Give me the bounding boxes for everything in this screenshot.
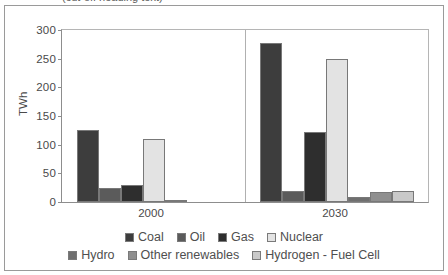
bar-gas-2030: [304, 132, 326, 202]
bar-gas-2000: [121, 185, 143, 202]
legend-swatch-icon: [68, 251, 77, 260]
legend-swatch-icon: [125, 233, 134, 242]
bar-nuclear-2000: [143, 139, 165, 202]
bar-slot: [282, 30, 304, 202]
legend-item-gas[interactable]: Gas: [218, 230, 254, 244]
legend-item-hydrogen-fuel-cell[interactable]: Hydrogen - Fuel Cell: [252, 248, 380, 262]
y-tick-250: 250: [36, 53, 62, 65]
bar-hydro-2000: [165, 200, 187, 202]
y-tick-0: 0: [49, 196, 62, 208]
bar-coal-2000: [77, 130, 99, 202]
bar-slot: [209, 30, 231, 202]
x-axis-label-2030: 2030: [275, 207, 395, 219]
legend-item-hydro[interactable]: Hydro: [68, 248, 114, 262]
bar-hydro-2030: [348, 197, 370, 202]
legend-swatch-icon: [177, 233, 186, 242]
legend-swatch-icon: [267, 233, 276, 242]
bar-hydrogen-fuel-cell-2030: [392, 191, 414, 202]
bar-slot: [99, 30, 121, 202]
legend-label: Gas: [231, 230, 254, 244]
y-tick-200: 200: [36, 81, 62, 93]
legend-label: Hydro: [81, 248, 114, 262]
y-tick-150: 150: [36, 110, 62, 122]
y-tick-100: 100: [36, 139, 62, 151]
bar-oil-2030: [282, 191, 304, 202]
legend-item-oil[interactable]: Oil: [177, 230, 205, 244]
bar-oil-2000: [99, 188, 121, 202]
cut-off-heading-text: (cut-off heading text): [62, 0, 163, 3]
bar-slot: [370, 30, 392, 202]
legend-label: Other renewables: [141, 248, 240, 262]
legend-label: Hydrogen - Fuel Cell: [265, 248, 380, 262]
legend-swatch-icon: [252, 251, 261, 260]
plot-area: 300250200150100500: [61, 29, 429, 203]
legend-label: Oil: [190, 230, 205, 244]
y-tick-50: 50: [43, 167, 62, 179]
legend-label: Nuclear: [280, 230, 323, 244]
legend-swatch-icon: [218, 233, 227, 242]
bar-slot: [77, 30, 99, 202]
legend-row-primary: CoalOilGasNuclear: [5, 230, 443, 244]
bar-group-2000: [62, 30, 245, 202]
legend-item-nuclear[interactable]: Nuclear: [267, 230, 323, 244]
figure-frame: TWh 300250200150100500 2000 2030 CoalOil…: [4, 5, 444, 271]
bar-slot: [260, 30, 282, 202]
x-axis-label-2000: 2000: [91, 207, 211, 219]
bar-coal-2030: [260, 43, 282, 202]
bar-slot: [392, 30, 414, 202]
bar-slot: [121, 30, 143, 202]
y-tick-300: 300: [36, 24, 62, 36]
legend-item-coal[interactable]: Coal: [125, 230, 164, 244]
legend-item-other-renewables[interactable]: Other renewables: [128, 248, 240, 262]
bar-nuclear-2030: [326, 59, 348, 202]
bar-slot: [187, 30, 209, 202]
bar-slot: [165, 30, 187, 202]
legend-label: Coal: [138, 230, 164, 244]
bar-slot: [143, 30, 165, 202]
legend: CoalOilGasNuclear HydroOther renewablesH…: [5, 230, 443, 266]
legend-swatch-icon: [128, 251, 137, 260]
legend-row-secondary: HydroOther renewablesHydrogen - Fuel Cel…: [5, 248, 443, 262]
bar-other-renewables-2030: [370, 192, 392, 202]
bar-slot: [348, 30, 370, 202]
bar-slot: [304, 30, 326, 202]
y-axis-title: TWh: [17, 92, 29, 116]
bar-slot: [326, 30, 348, 202]
bar-group-2030: [245, 30, 428, 202]
